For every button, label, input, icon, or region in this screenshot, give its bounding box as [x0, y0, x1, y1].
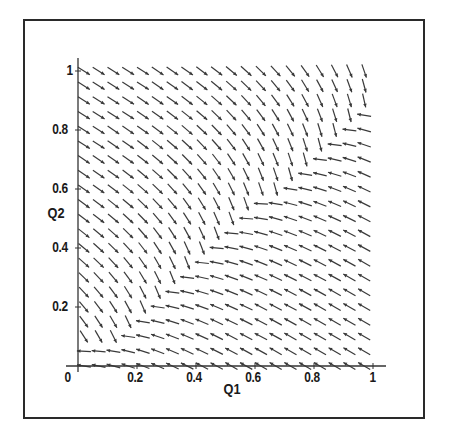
arrowhead-icon	[305, 147, 308, 151]
arrowhead-icon	[358, 157, 362, 160]
arrowhead-icon	[231, 221, 234, 225]
x-tick-label: 0.2	[128, 369, 143, 385]
arrowhead-icon	[181, 319, 185, 322]
arrowhead-icon	[343, 171, 347, 174]
arrowhead-icon	[151, 348, 155, 351]
arrowhead-icon	[239, 217, 243, 221]
arrowhead-icon	[224, 231, 228, 235]
arrowhead-icon	[225, 275, 229, 278]
arrowhead-icon	[240, 260, 244, 263]
arrowhead-icon	[269, 245, 273, 248]
y-tick-label: 0.6	[53, 180, 68, 196]
arrowhead-icon	[216, 236, 219, 240]
x-tick-label: 0.8	[305, 369, 320, 385]
arrowhead-icon	[320, 118, 323, 122]
x-tick-label: 0	[65, 369, 71, 385]
y-axis-title: Q2	[48, 204, 65, 221]
arrowhead-icon	[195, 261, 199, 265]
x-tick-label: 0.6	[246, 369, 261, 385]
arrowhead-icon	[328, 186, 332, 189]
arrow-field	[77, 64, 371, 369]
arrowhead-icon	[290, 147, 293, 151]
arrowhead-icon	[181, 304, 185, 307]
arrowhead-icon	[195, 304, 199, 307]
x-tick-label: 1	[370, 369, 376, 385]
arrowhead-icon	[260, 192, 263, 196]
x-tick-label: 0.4	[187, 369, 202, 385]
y-tick-label: 0.8	[53, 121, 68, 137]
arrowhead-icon	[358, 142, 362, 145]
arrowhead-icon	[364, 74, 367, 78]
arrowhead-icon	[254, 245, 258, 248]
arrowhead-icon	[151, 334, 155, 337]
arrowhead-icon	[349, 88, 352, 92]
y-tick-label: 1	[67, 62, 73, 78]
y-tick-label: 0.4	[53, 239, 68, 255]
y-tick-label: 0.2	[53, 298, 68, 314]
arrowhead-icon	[269, 231, 273, 234]
x-axis-title: Q1	[224, 380, 241, 397]
arrowhead-icon	[254, 202, 258, 206]
arrowhead-icon	[166, 319, 170, 322]
arrowhead-icon	[290, 162, 293, 166]
arrowhead-icon	[299, 216, 303, 219]
arrowhead-icon	[246, 206, 249, 210]
arrowhead-icon	[275, 177, 278, 181]
axes	[66, 58, 386, 372]
arrowhead-icon	[210, 290, 214, 293]
arrowhead-icon	[284, 216, 288, 219]
